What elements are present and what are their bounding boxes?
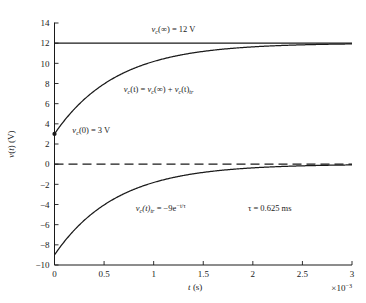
y-tick-label: 10 bbox=[41, 59, 51, 69]
annotation-initial-value: vc(0) = 3 V bbox=[72, 125, 111, 136]
x-tick-label: 1.5 bbox=[198, 269, 210, 279]
x-tick-label: 0 bbox=[52, 269, 57, 279]
annotation-total-response: vc(t) = vc(∞) + vc(t)tr bbox=[124, 84, 194, 95]
y-tick-label: 4 bbox=[45, 119, 50, 129]
annotations: vc(∞) = 12 Vvc(t) = vc(∞) + vc(t)trvc(0)… bbox=[72, 24, 291, 213]
rc-step-response-chart: −10−8−6−4−20246810121400.511.522.53 vc(∞… bbox=[0, 0, 366, 303]
y-tick-label: −8 bbox=[40, 240, 50, 250]
x-tick-label: 2.5 bbox=[297, 269, 309, 279]
y-tick-label: −4 bbox=[40, 200, 50, 210]
x-axis-multiplier-label: ×10−3 bbox=[331, 282, 352, 293]
tick-marks bbox=[55, 23, 353, 265]
annotation-transient: vc(t)tr = −9e−t/τ bbox=[136, 202, 187, 214]
series-capacitor-voltage-v-c-t- bbox=[55, 44, 353, 134]
x-tick-label: 3 bbox=[350, 269, 355, 279]
annotation-tau-value: τ = 0.625 ms bbox=[248, 203, 292, 213]
chart-figure: −10−8−6−4−20246810121400.511.522.53 vc(∞… bbox=[0, 0, 366, 303]
y-tick-label: −10 bbox=[35, 260, 50, 270]
data-series bbox=[55, 43, 353, 265]
y-tick-label: 2 bbox=[45, 139, 50, 149]
initial-voltage-marker bbox=[52, 132, 56, 136]
series-transient-response-v-c-t-tr bbox=[55, 165, 353, 255]
y-tick-label: 12 bbox=[41, 38, 50, 48]
x-tick-label: 2 bbox=[251, 269, 256, 279]
annotation-steady-state: vc(∞) = 12 V bbox=[152, 24, 197, 35]
x-tick-label: 1 bbox=[151, 269, 156, 279]
y-tick-label: 14 bbox=[41, 18, 51, 28]
y-axis-title: v(t) (V) bbox=[6, 130, 16, 157]
y-tick-label: −2 bbox=[40, 180, 50, 190]
y-tick-label: 6 bbox=[45, 99, 50, 109]
tick-labels: −10−8−6−4−20246810121400.511.522.53 bbox=[35, 18, 354, 278]
y-tick-label: 0 bbox=[45, 159, 50, 169]
x-axis-title: t (s) bbox=[188, 282, 202, 292]
data-markers bbox=[52, 132, 56, 136]
y-tick-label: 8 bbox=[45, 79, 50, 89]
x-tick-label: 0.5 bbox=[98, 269, 110, 279]
y-tick-label: −6 bbox=[40, 220, 50, 230]
axes bbox=[55, 23, 353, 266]
